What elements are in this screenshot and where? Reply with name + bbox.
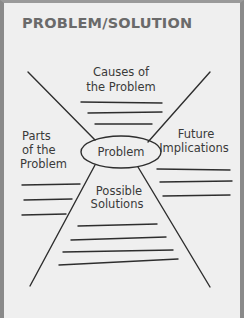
right-section-label-line1: Future [178,127,215,141]
writing-line [78,224,157,226]
writing-line [63,250,173,252]
writing-line [160,181,232,182]
left-section-label-line1: Parts [22,129,51,143]
bottom-section-label-line1: Possible [96,184,142,198]
writing-line [157,169,230,170]
top-section-label-line2: the Problem [86,80,156,94]
top-section-label-line1: Causes of [93,65,150,79]
right-section-label-line2: Implications [159,141,229,155]
writing-line [71,237,166,240]
writing-line [59,259,178,265]
writing-line [24,199,72,200]
left-section-label-line3: Problem [20,157,67,171]
divider-bottom-right [138,167,210,287]
bottom-section-label-line2: Solutions [91,197,144,211]
left-section-label-line2: of the [22,143,56,157]
center-label: Problem [97,145,144,159]
writing-line [88,112,162,113]
writing-line [163,195,230,196]
problem-solution-diagram: Causes of the Problem Parts of the Probl… [0,0,244,318]
writing-line [22,214,66,215]
writing-line [81,102,162,103]
writing-line [22,184,80,185]
